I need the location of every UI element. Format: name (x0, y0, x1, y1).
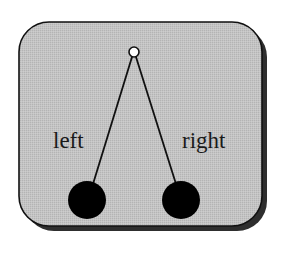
left-pendulum-bob (68, 181, 106, 219)
right-pendulum-bob (162, 181, 200, 219)
pendulum-diagram: left right (0, 0, 284, 253)
panel-background (19, 22, 262, 226)
pivot-point-icon (129, 47, 139, 57)
right-label: right (182, 128, 226, 153)
left-label: left (53, 128, 84, 153)
